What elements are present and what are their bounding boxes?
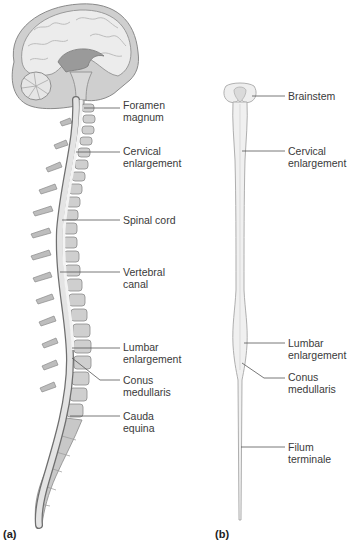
panel-label-a: (a)	[3, 528, 16, 540]
panel-label-b: (b)	[215, 528, 229, 540]
label-cervical-enlargement-b: Cervical enlargement	[288, 145, 346, 169]
label-cauda-equina: Cauda equina	[123, 410, 155, 434]
label-lumbar-enlargement-a: Lumbar enlargement	[123, 341, 181, 365]
skull-and-brain	[12, 4, 138, 109]
label-vertebral-canal: Vertebral canal	[123, 266, 165, 290]
label-cervical-enlargement-a: Cervical enlargement	[123, 145, 181, 169]
label-filum-terminale: Filum terminale	[288, 441, 331, 465]
label-foramen-magnum: Foramen magnum	[123, 99, 165, 123]
label-conus-medullaris-a: Conus medullaris	[123, 374, 171, 398]
label-lumbar-enlargement-b: Lumbar enlargement	[288, 337, 346, 361]
label-conus-medullaris-b: Conus medullaris	[288, 371, 336, 395]
label-spinal-cord: Spinal cord	[123, 214, 176, 226]
spinal-cord-b	[224, 83, 256, 520]
label-brainstem: Brainstem	[288, 90, 335, 102]
